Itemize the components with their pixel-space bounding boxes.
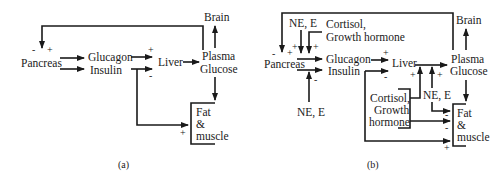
node-plasma: Plasma [202, 50, 235, 62]
glucose-regulation-diagram: - + Pancreas Glucagon Insulin + - Liver … [0, 0, 504, 180]
node-liver: Liver [158, 56, 183, 68]
sign-plus: + [383, 47, 389, 58]
sign-plus: + [313, 41, 319, 52]
node-liver: Liver [392, 57, 417, 69]
sign-minus: - [445, 122, 448, 133]
node-cortisol-mid-line2: Growth [374, 104, 409, 116]
node-fat: Fat [457, 107, 473, 119]
sign-plus: + [292, 41, 298, 52]
sign-plus: + [148, 44, 154, 55]
sign-plus: + [444, 142, 450, 153]
node-insulin: Insulin [328, 65, 360, 77]
node-plasma: Plasma [451, 53, 484, 65]
node-glucose: Glucose [450, 65, 488, 77]
node-cortisol-top-line2: Growth hormone [326, 31, 405, 43]
panel-b: - + NE, E + Cortisol, Growth hormone + P… [264, 13, 490, 171]
node-amp: & [457, 119, 466, 131]
node-brain: Brain [456, 14, 482, 26]
sign-plus: + [410, 69, 416, 80]
node-glucose: Glucose [200, 63, 238, 75]
sign-plus: + [437, 69, 443, 80]
sign-minus: - [149, 70, 152, 81]
sign-plus: + [180, 127, 186, 138]
sign-plus: + [47, 44, 53, 55]
node-muscle: muscle [457, 131, 490, 143]
sign-minus: - [445, 109, 448, 120]
node-ne-e-right: NE, E [423, 89, 451, 102]
node-amp: & [196, 118, 205, 130]
node-insulin: Insulin [90, 64, 122, 76]
node-fat: Fat [196, 106, 212, 118]
sign-minus: - [314, 74, 317, 85]
arrow-insulin-to-fat-muscle [137, 69, 188, 125]
node-ne-e-bottom: NE, E [297, 106, 325, 119]
sign-minus: - [32, 44, 35, 55]
node-muscle: muscle [196, 130, 229, 142]
node-cortisol-top-line1: Cortisol, [326, 18, 366, 31]
node-glucagon: Glucagon [88, 51, 133, 64]
node-ne-e-top: NE, E [289, 17, 317, 30]
panel-a: - + Pancreas Glucagon Insulin + - Liver … [21, 11, 238, 171]
caption-b: (b) [367, 159, 379, 171]
caption-a: (a) [118, 159, 129, 171]
node-brain: Brain [204, 11, 230, 23]
feedback-arrow-glucose-to-pancreas [42, 26, 203, 50]
node-pancreas: Pancreas [21, 57, 62, 69]
sign-minus: - [384, 71, 387, 82]
node-cortisol-mid-line3: hormone [369, 116, 410, 128]
